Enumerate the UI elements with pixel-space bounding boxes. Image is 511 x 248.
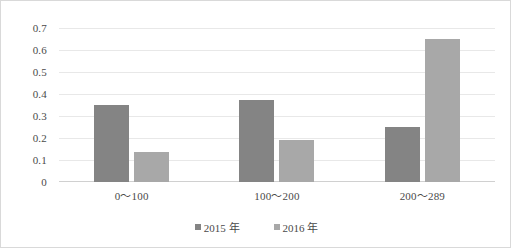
- y-axis-tick-label: 0.5: [33, 66, 47, 78]
- bar: [385, 127, 420, 182]
- bar: [94, 105, 129, 182]
- y-axis-tick-label: 0.4: [33, 88, 47, 100]
- legend-label: 2015 年: [204, 219, 240, 235]
- bar: [239, 100, 274, 183]
- bar-group: [204, 28, 349, 182]
- legend-item[interactable]: 2016 年: [274, 219, 319, 235]
- bar: [279, 140, 314, 182]
- bar-group: [59, 28, 204, 182]
- bar-group: [350, 28, 495, 182]
- y-axis-tick-label: 0.2: [33, 132, 47, 144]
- x-axis: 0～100100～200200～289: [59, 187, 495, 205]
- plot-area: [59, 28, 495, 182]
- y-axis-tick-label: 0.3: [33, 110, 47, 122]
- legend-label: 2016 年: [283, 219, 319, 235]
- y-axis-tick-label: 0: [41, 176, 47, 188]
- bar: [425, 39, 460, 182]
- legend-item[interactable]: 2015 年: [195, 219, 240, 235]
- bar: [134, 152, 169, 182]
- y-axis-tick-label: 0.7: [33, 22, 47, 34]
- y-axis-tick-label: 0.1: [33, 154, 47, 166]
- legend-swatch-icon: [274, 224, 280, 230]
- y-axis: 0.70.60.50.40.30.20.10: [1, 28, 53, 182]
- y-axis-tick-label: 0.6: [33, 44, 47, 56]
- x-axis-tick-label: 200～289: [400, 187, 445, 203]
- x-axis-tick-label: 0～100: [115, 187, 149, 203]
- x-axis-tick-label: 100～200: [254, 187, 299, 203]
- bar-chart: 0.70.60.50.40.30.20.10 0～100100～200200～2…: [0, 0, 511, 248]
- legend-swatch-icon: [195, 224, 201, 230]
- chart-legend: 2015 年2016 年: [1, 219, 511, 235]
